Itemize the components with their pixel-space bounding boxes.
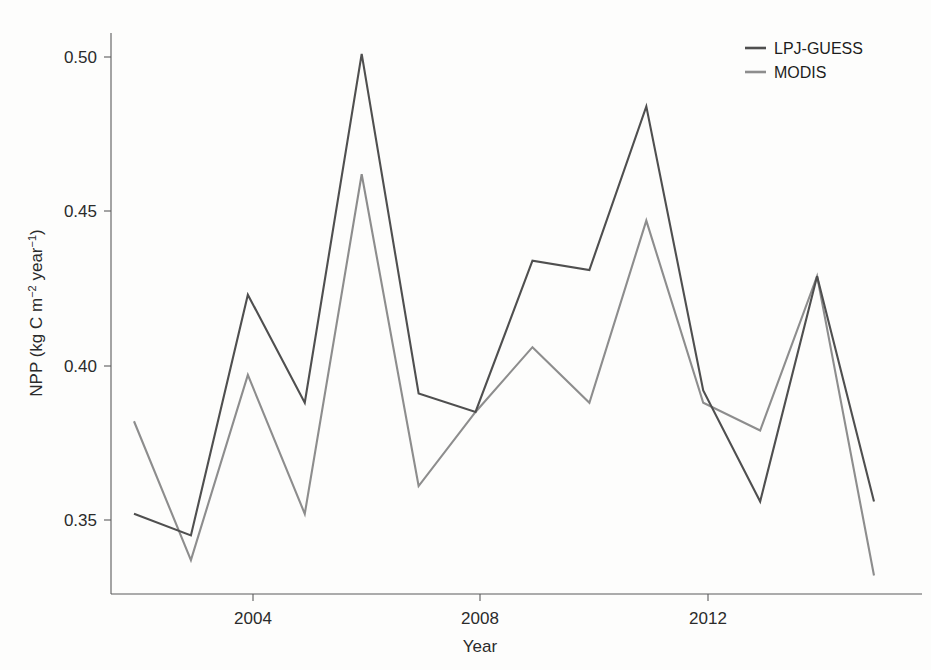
chart-figure: 0.35 0.40 0.45 0.50 2004 2008 2012 Year …	[0, 0, 931, 670]
x-tick-label-0: 2004	[234, 609, 272, 628]
x-tick-label-1: 2008	[461, 609, 499, 628]
chart-legend: LPJ-GUESS MODIS	[745, 40, 863, 81]
x-tick-label-2: 2012	[689, 609, 727, 628]
legend-label-modis: MODIS	[774, 64, 826, 81]
y-axis-title-mid: year	[27, 247, 46, 285]
line-chart: 0.35 0.40 0.45 0.50 2004 2008 2012 Year …	[0, 0, 931, 670]
y-tick-group	[104, 57, 111, 520]
y-axis-title-suffix: )	[27, 229, 46, 235]
y-tick-label-0: 0.35	[64, 511, 97, 530]
x-axis-title: Year	[463, 637, 498, 656]
legend-label-lpj-guess: LPJ-GUESS	[774, 40, 863, 57]
y-tick-label-2: 0.45	[64, 202, 97, 221]
series-line-lpj-guess	[134, 54, 874, 536]
y-axis-title: NPP (kg C m−2 year−1)	[26, 229, 46, 396]
y-axis-title-prefix: NPP (kg C m	[27, 298, 46, 397]
y-axis-title-sup1: −2	[26, 285, 38, 298]
x-tick-group	[253, 594, 708, 601]
y-tick-label-1: 0.40	[64, 357, 97, 376]
y-axis-title-sup2: −1	[26, 235, 38, 248]
y-tick-label-3: 0.50	[64, 48, 97, 67]
series-line-modis	[134, 174, 874, 575]
